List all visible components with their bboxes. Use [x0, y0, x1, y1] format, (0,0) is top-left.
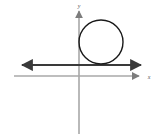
figure-canvas: y x	[0, 0, 158, 134]
y-axis-label: y	[77, 3, 81, 9]
coordinate-plane-figure: y x	[0, 0, 158, 134]
x-axis-label: x	[147, 74, 151, 80]
circle-shape	[79, 20, 123, 64]
